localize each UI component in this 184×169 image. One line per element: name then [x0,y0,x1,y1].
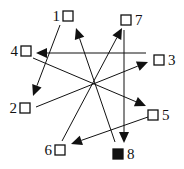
edge-8-to-1 [75,28,115,142]
edge-4-to-5 [33,58,146,106]
square-node-icon [121,15,131,25]
node-8: 8 [113,146,135,162]
square-node-icon [148,110,158,120]
square-node-icon [55,145,65,155]
edge-3-to-4 [36,48,146,58]
node-3: 3 [154,52,176,68]
node-label: 3 [168,52,176,68]
square-node-icon [63,11,73,21]
node-2: 2 [10,100,31,116]
node-label: 6 [45,142,53,158]
node-label: 8 [127,146,135,162]
arrowhead-icon [75,28,84,40]
arrowhead-icon [119,132,129,143]
node-7: 7 [121,12,143,28]
node-label: 2 [10,100,18,116]
graph-diagram: 12345678 [0,0,184,169]
edge-6-to-7 [62,28,122,141]
square-node-icon [20,103,30,113]
arrowhead-icon [36,48,47,58]
edge-line [81,117,148,140]
filled-square-node-icon [113,149,123,159]
edge-5-to-6 [71,117,148,145]
edge-line [37,25,60,86]
node-label: 1 [53,8,61,24]
arrowhead-icon [32,84,41,96]
edge-7-to-8 [119,30,129,143]
node-label: 5 [162,107,170,123]
node-label: 4 [11,43,19,59]
edge-line [36,66,138,107]
node-1: 1 [53,8,74,24]
node-6: 6 [45,142,66,158]
node-4: 4 [11,43,32,59]
arrowhead-icon [71,136,83,145]
square-node-icon [154,55,164,65]
graph-svg: 12345678 [0,0,184,169]
node-5: 5 [148,107,170,123]
edge-line [33,58,136,102]
arrowhead-icon [112,28,122,40]
edges-layer [32,25,148,145]
node-label: 7 [135,12,143,28]
edge-1-to-2 [32,25,60,96]
square-node-icon [21,46,31,56]
